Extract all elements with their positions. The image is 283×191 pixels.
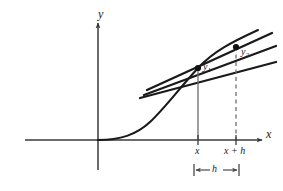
point-xh-y2-marker (233, 44, 239, 50)
x-tick-label: x (195, 146, 199, 156)
y-axis-label: y (98, 8, 103, 20)
y1-subscript: 1 (207, 66, 211, 74)
derivative-diagram: y x y1 y2 x x + h h (0, 0, 283, 191)
point-label-y1: y1 (203, 62, 211, 72)
point-x-y1-marker (195, 65, 201, 71)
figure-canvas (0, 0, 283, 191)
x-axis-label: x (266, 128, 271, 140)
y2-subscript: 2 (245, 51, 249, 59)
point-label-y2: y2 (241, 47, 249, 57)
x-plus-h-tick-label: x + h (224, 146, 245, 156)
h-interval-label: h (212, 163, 217, 174)
